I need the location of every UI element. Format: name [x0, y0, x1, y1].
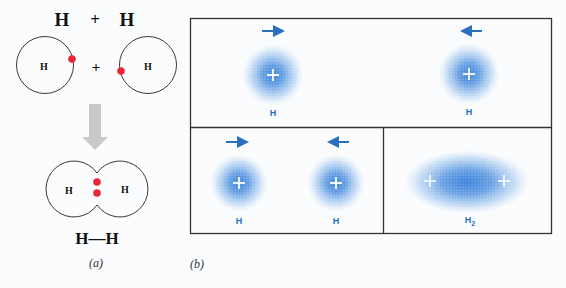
bottom-right-atom-label: H: [333, 216, 340, 226]
caption-b: (b): [190, 257, 204, 272]
top-left-atom: [242, 31, 304, 106]
h2-subscript: 2: [471, 220, 475, 227]
h2-molecule-label: H2: [465, 215, 475, 227]
h2-molecule-cloud: [404, 150, 530, 214]
bottom-left-atom-label: H: [236, 216, 243, 226]
top-left-atom-label: H: [270, 108, 277, 118]
top-right-atom-label: H: [466, 107, 473, 117]
bottom-left-atom: [210, 142, 268, 212]
panel-b-graphics: [0, 0, 566, 288]
top-right-atom: [438, 31, 500, 105]
hydrogen-bonding-figure: H + H H + H H H H—H (a): [0, 0, 566, 288]
bottom-right-atom: [307, 142, 365, 212]
